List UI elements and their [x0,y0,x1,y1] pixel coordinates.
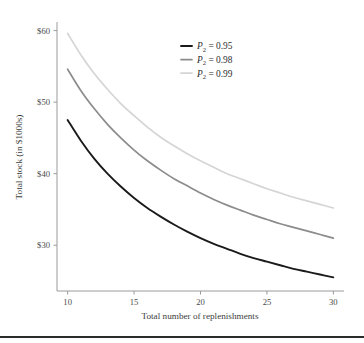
x-axis-title: Total number of replenishments [142,311,259,321]
legend-label-1: P2 = 0.98 [196,55,233,66]
y-tick-label-$40: $40 [37,169,50,179]
line-chart: $30$40$50$60 1015202530 Total number of … [0,0,364,343]
y-tick-label-$30: $30 [37,240,50,250]
x-axis-tick-labels: 1015202530 [63,297,337,307]
x-axis-ticks [68,291,334,295]
x-tick-label-10: 10 [63,297,72,307]
chart-figure: $30$40$50$60 1015202530 Total number of … [0,0,364,343]
y-tick-label-$60: $60 [37,26,50,36]
y-axis-title: Total stock (in $1000s) [14,115,24,200]
x-tick-label-25: 25 [263,297,272,307]
y-axis-tick-labels: $30$40$50$60 [37,26,50,251]
x-tick-label-30: 30 [329,297,338,307]
x-tick-label-15: 15 [130,297,139,307]
y-tick-label-$50: $50 [37,97,50,107]
legend-label-0: P2 = 0.95 [196,41,233,52]
bottom-divider [0,336,364,338]
x-tick-label-20: 20 [196,297,205,307]
curve-series-1 [68,69,334,238]
curve-series-0 [68,120,334,277]
chart-legend: P2 = 0.95P2 = 0.98P2 = 0.99 [181,41,233,80]
y-axis-ticks [54,31,58,246]
legend-label-2: P2 = 0.99 [196,69,233,80]
